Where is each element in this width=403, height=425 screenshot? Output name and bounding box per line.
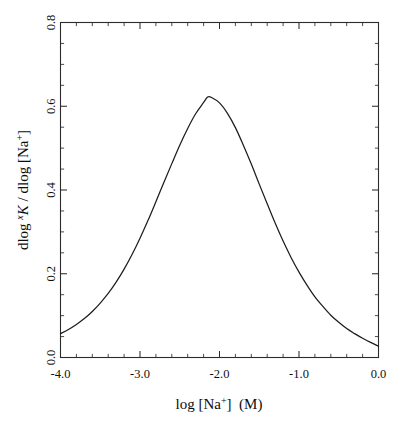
figure-container: -4.0-3.0-2.0-1.00.0 0.00.20.40.60.8 log … [0, 0, 403, 425]
y-tick-label: 0.8 [44, 15, 58, 31]
x-axis-title-text: log [Na+] (M) [176, 395, 263, 413]
x-tick-label: -4.0 [51, 367, 71, 381]
y-axis-title-text: dlog xK / dlog [Na+] [14, 130, 31, 250]
y-tick-label: 0.0 [44, 350, 58, 366]
x-axis-title: log [Na+] (M) [176, 395, 263, 413]
x-tick-label: -3.0 [130, 367, 150, 381]
y-tick-label: 0.2 [44, 266, 58, 282]
y-tick-label: 0.6 [44, 98, 58, 114]
y-axis-title: dlog xK / dlog [Na+] [14, 130, 31, 250]
x-tick-label: 0.0 [371, 367, 387, 381]
x-tick-label: -1.0 [289, 367, 309, 381]
x-tick-label: -2.0 [210, 367, 230, 381]
chart-canvas: -4.0-3.0-2.0-1.00.0 0.00.20.40.60.8 log … [0, 0, 403, 425]
y-tick-label: 0.4 [44, 181, 58, 197]
